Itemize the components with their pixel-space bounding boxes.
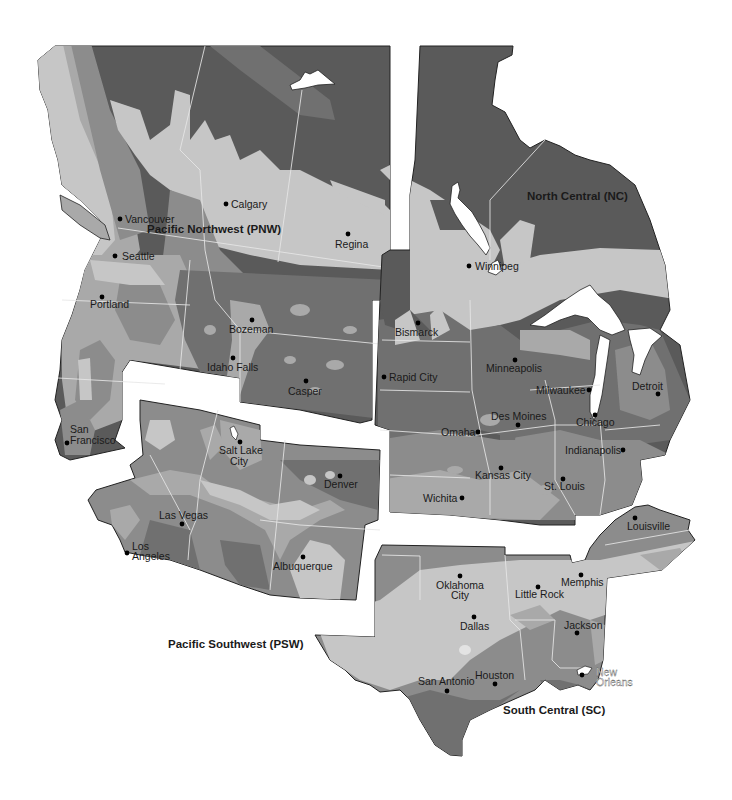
- city-label-portland: Portland: [90, 298, 129, 310]
- city-label-san-antonio: San Antonio: [418, 675, 475, 687]
- city-label-orleans: Orleans: [596, 676, 633, 688]
- city-label-oklahoma-city: City: [451, 589, 470, 601]
- city-dot-wichita: [460, 496, 465, 501]
- city-label-idaho-falls: Idaho Falls: [207, 361, 258, 373]
- region-sc: [315, 505, 700, 756]
- region-pnw: [30, 40, 390, 460]
- city-dot-milwaukee: [587, 388, 592, 393]
- city-label-kansas-city: Kansas City: [475, 469, 532, 481]
- city-label-des-moines: Des Moines: [491, 410, 546, 422]
- city-label-seattle: Seattle: [122, 250, 155, 262]
- city-dot-las-vegas: [180, 522, 185, 527]
- city-dot-idaho-falls: [231, 356, 236, 361]
- city-label-casper: Casper: [288, 385, 322, 397]
- region-label-nc: North Central (NC): [527, 190, 628, 202]
- city-label-little-rock: Little Rock: [515, 588, 565, 600]
- city-dot-los-angeles: [125, 551, 130, 556]
- city-dot-casper: [304, 379, 309, 384]
- city-dot-san-francisco: [65, 441, 70, 446]
- city-label-denver: Denver: [324, 478, 358, 490]
- city-label-wichita: Wichita: [423, 492, 458, 504]
- city-dot-rapid-city: [382, 375, 387, 380]
- city-label-detroit: Detroit: [632, 380, 663, 392]
- city-label-memphis: Memphis: [561, 576, 604, 588]
- city-label-las-vegas: Las Vegas: [159, 509, 208, 521]
- city-dot-jackson: [575, 631, 580, 636]
- region-nc: [375, 46, 690, 525]
- city-label-bismarck: Bismarck: [395, 326, 439, 338]
- city-dot-san-antonio: [445, 689, 450, 694]
- city-label-omaha: Omaha: [441, 426, 476, 438]
- city-dot-albuquerque: [301, 555, 306, 560]
- city-label-milwaukee: Milwaukee: [536, 384, 586, 396]
- region-label-pnw: Pacific Northwest (PNW): [147, 223, 281, 235]
- city-dot-winnipeg: [467, 264, 472, 269]
- city-dot-bozeman: [250, 318, 255, 323]
- region-psw: [88, 400, 380, 600]
- city-label-houston: Houston: [475, 669, 514, 681]
- city-dot-regina: [346, 232, 351, 237]
- region-label-psw: Pacific Southwest (PSW): [168, 638, 304, 650]
- city-label-salt-lake-city: City: [230, 455, 249, 467]
- city-label-chicago: Chicago: [576, 416, 615, 428]
- city-label-indianapolis: Indianapolis: [565, 444, 621, 456]
- city-dot-detroit: [656, 392, 661, 397]
- city-dot-indianapolis: [621, 448, 626, 453]
- city-dot-vancouver: [118, 217, 123, 222]
- city-label-regina: Regina: [335, 238, 368, 250]
- city-label-angeles: Angeles: [132, 550, 170, 562]
- city-label-minneapolis: Minneapolis: [486, 362, 542, 374]
- city-label-louisville: Louisville: [627, 520, 670, 532]
- city-label-st-louis: St. Louis: [544, 480, 585, 492]
- city-label-san-francisco-2: Francisco: [70, 434, 116, 446]
- city-dot-bismarck: [416, 321, 421, 326]
- city-dot-des-moines: [516, 423, 521, 428]
- city-dot-omaha: [476, 430, 481, 435]
- city-dot-houston: [493, 682, 498, 687]
- city-dot-new-orleans: [580, 673, 585, 678]
- city-label-albuquerque: Albuquerque: [273, 560, 333, 572]
- city-label-bozeman: Bozeman: [229, 323, 274, 335]
- city-label-rapid-city: Rapid City: [389, 371, 438, 383]
- city-dot-seattle: [113, 254, 118, 259]
- regional-zone-map: Vancouver Calgary Regina Seattle Portlan…: [0, 0, 732, 800]
- city-label-jackson: Jackson: [564, 619, 603, 631]
- city-label-calgary: Calgary: [231, 198, 268, 210]
- city-dot-oklahoma-city: [458, 574, 463, 579]
- city-dot-calgary: [224, 202, 229, 207]
- city-label-winnipeg: Winnipeg: [475, 260, 519, 272]
- region-label-sc: South Central (SC): [503, 704, 605, 716]
- city-dot-dallas: [472, 615, 477, 620]
- city-label-dallas: Dallas: [460, 620, 489, 632]
